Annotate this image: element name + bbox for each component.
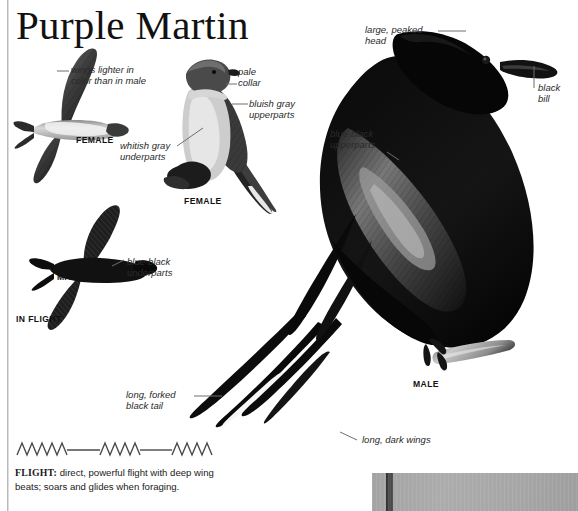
caption-male-perched: MALE [413,379,439,389]
habitat-photo-grain [372,473,578,511]
label-bluish-gray-upperparts: bluish gray upperparts [249,98,295,121]
label-blue-black-upperparts: blue-black upperparts [330,128,375,151]
left-margin-rule-shadow [8,0,9,511]
caption-male-in-flight: MALE [57,272,83,282]
caption-female-in-flight: FEMALE [76,135,114,145]
label-large-peaked-head: large, peaked head [365,24,423,47]
figure-male-perched [190,31,558,427]
label-pale-collar: pale collar [238,66,261,89]
flight-description: FLIGHT: direct, powerful flight with dee… [15,466,230,493]
caption-in-flight: IN FLIGHT [16,314,62,324]
label-blue-black-underparts: blue-black underparts [127,256,172,279]
label-long-forked-black-tail: long, forked black tail [126,389,176,412]
label-whitish-gray-underparts: whitish gray underparts [120,140,170,163]
page-title: Purple Martin [16,2,249,48]
flight-pattern-diagram [17,443,212,455]
caption-female-perched: FEMALE [184,196,222,206]
label-black-bill: black bill [538,82,560,105]
flight-heading: FLIGHT: [15,467,57,478]
label-long-dark-wings: long, dark wings [362,434,431,445]
field-guide-page: Purple Martin wings lighter in color tha… [0,0,578,511]
label-wings-lighter: wings lighter in color than in male [71,64,146,87]
leader-lines [57,31,534,440]
habitat-photo [372,473,578,511]
